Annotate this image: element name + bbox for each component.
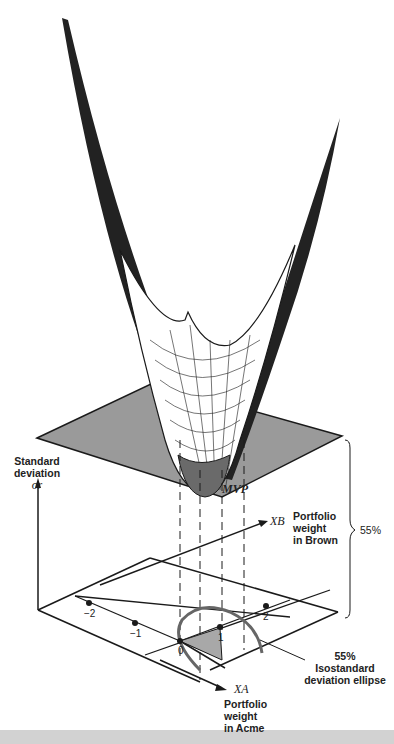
- portfolio-std-surface-diagram: [0, 0, 394, 744]
- ellipse-label-line3: deviation ellipse: [297, 674, 393, 686]
- xb-label-line2: weight: [293, 522, 338, 534]
- base-plane: [38, 558, 338, 682]
- ellipse-label: 55% Isostandard deviation ellipse: [297, 650, 393, 686]
- y-axis-symbol: σr: [2, 479, 72, 491]
- bottom-strip: [0, 730, 394, 744]
- xb-label-line1: Portfolio: [293, 510, 338, 522]
- xa-grid-line-2: [180, 600, 290, 641]
- xb-label-line3: in Brown: [293, 534, 338, 546]
- tick-label-neg1: −1: [130, 628, 141, 639]
- tick-label-neg2: −2: [84, 608, 95, 619]
- tick-label-0: 0: [178, 645, 184, 656]
- xb-axis-arrow-icon: [258, 520, 268, 527]
- xa-label-line3: in Acme: [224, 722, 267, 734]
- tick-label-2: 2: [263, 611, 269, 622]
- ellipse-label-line1: 55%: [297, 650, 393, 662]
- brace-value-label: 55%: [360, 524, 381, 536]
- xa-label: Portfolio weight in Acme: [224, 698, 267, 734]
- xb-label: Portfolio weight in Brown: [293, 510, 338, 546]
- xa-label-line1: Portfolio: [224, 698, 267, 710]
- xa-symbol: XA: [234, 683, 249, 695]
- ellipse-label-line2: Isostandard: [297, 662, 393, 674]
- y-axis-label-line1: Standard: [2, 455, 72, 467]
- mvp-label: MVP: [222, 483, 248, 495]
- xa-grid-line-3: [145, 590, 330, 655]
- xb-symbol: XB: [270, 515, 285, 527]
- xa-label-line2: weight: [224, 710, 267, 722]
- tick-label-1: 1: [218, 632, 224, 643]
- xa-axis-arrow-icon: [215, 684, 227, 691]
- xb-axis: [100, 523, 262, 585]
- xa-axis-ext: [160, 660, 222, 688]
- y-axis-label: Standard deviation σr: [2, 455, 72, 491]
- level-brace: [345, 440, 355, 618]
- tick-row-line: [75, 596, 290, 617]
